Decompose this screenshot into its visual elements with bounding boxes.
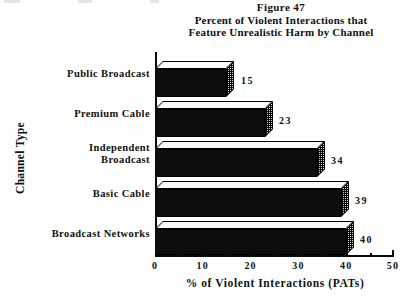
bar-value-label: 15 xyxy=(241,75,254,86)
figure-bar-chart: Figure 47 Percent of Violent Interaction… xyxy=(0,0,412,304)
bar-value-label: 39 xyxy=(355,195,368,206)
x-tick-label-30: 30 xyxy=(281,260,315,271)
x-tick-35 xyxy=(322,253,324,257)
bar-side-face xyxy=(265,101,273,137)
scan-artifact xyxy=(4,0,20,3)
x-tick-label-10: 10 xyxy=(186,260,220,271)
y-axis-line xyxy=(155,52,157,255)
x-axis-title: % of Violent Interactions (PATs) xyxy=(155,277,395,289)
category-label-independent-broadcast: Independent Broadcast xyxy=(0,142,150,165)
x-tick-label-40: 40 xyxy=(329,260,363,271)
bar-top-face xyxy=(155,141,325,149)
x-tick-10 xyxy=(203,250,205,256)
figure-number: Figure 47 xyxy=(150,1,412,14)
category-label-premium-cable: Premium Cable xyxy=(0,108,150,120)
bar-front-face xyxy=(155,109,265,137)
scan-artifact xyxy=(78,0,92,3)
bar-top-face xyxy=(155,101,273,109)
bar-front-face xyxy=(155,189,341,217)
x-tick-0 xyxy=(155,250,157,256)
category-label-public-broadcast: Public Broadcast xyxy=(0,68,150,80)
x-tick-label-20: 20 xyxy=(234,260,268,271)
figure-title-line-2: Feature Unrealistic Harm by Channel xyxy=(150,26,412,39)
x-tick-50 xyxy=(392,250,394,256)
bar-value-label: 23 xyxy=(279,115,292,126)
category-label-broadcast-networks: Broadcast Networks xyxy=(0,228,150,240)
bar-top-face xyxy=(155,181,349,189)
bar-top-face xyxy=(155,61,234,69)
bar-front-face xyxy=(155,149,317,177)
figure-title-block: Figure 47 Percent of Violent Interaction… xyxy=(150,1,412,39)
x-tick-label-0: 0 xyxy=(138,260,172,271)
bar-side-face xyxy=(341,181,349,217)
plot-area: 15 23 34 39 40 xyxy=(155,52,394,255)
x-tick-40 xyxy=(346,250,348,256)
bar-side-face xyxy=(317,141,325,177)
x-tick-20 xyxy=(251,250,253,256)
category-label-basic-cable: Basic Cable xyxy=(0,188,150,200)
bar-top-face xyxy=(155,221,354,229)
x-tick-25 xyxy=(275,253,277,257)
x-tick-45 xyxy=(370,253,372,257)
bar-side-face xyxy=(226,61,234,97)
x-tick-15 xyxy=(227,253,229,257)
figure-title-line-1: Percent of Violent Interactions that xyxy=(150,14,412,27)
x-tick-label-50: 50 xyxy=(376,260,410,271)
bar-value-label: 34 xyxy=(331,155,344,166)
x-tick-5 xyxy=(179,253,181,257)
bar-front-face xyxy=(155,69,226,97)
bar-value-label: 40 xyxy=(360,234,373,245)
x-tick-30 xyxy=(298,250,300,256)
